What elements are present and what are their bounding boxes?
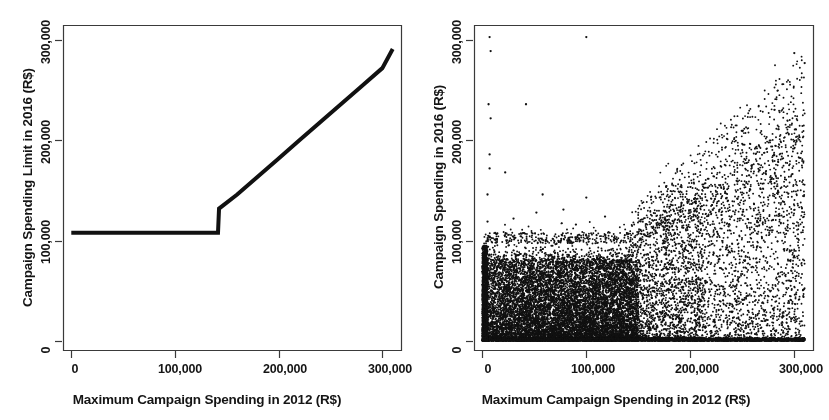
- y-tick-label-right-2: 200,000: [450, 120, 464, 164]
- y-tick-label-left-2: 200,000: [39, 120, 53, 164]
- y-axis-title-right: Campaign Spending in 2016 (R$): [431, 85, 446, 289]
- y-tick-label-right-3: 300,000: [450, 20, 464, 64]
- x-tick-label-right-3: 300,000: [779, 362, 823, 376]
- x-tick-label-left-0: 0: [72, 362, 79, 376]
- x-tick-label-left-3: 300,000: [368, 362, 412, 376]
- x-tick-label-left-2: 200,000: [263, 362, 307, 376]
- y-tick-label-left-1: 100,000: [39, 220, 53, 264]
- x-tick-label-right-2: 200,000: [675, 362, 719, 376]
- y-tick-label-left-3: 300,000: [39, 20, 53, 64]
- x-tick-label-right-0: 0: [485, 362, 492, 376]
- scatter-plot-canvas: [409, 0, 829, 420]
- x-axis-title-right: Maximum Campaign Spending in 2012 (R$): [409, 392, 823, 407]
- y-tick-label-right-0: 0: [450, 347, 464, 354]
- line-plot-canvas: [0, 0, 414, 420]
- figure-container: Campaign Spending Limit in 2016 (R$) Max…: [0, 0, 829, 420]
- panel-spending-scatter: Campaign Spending in 2016 (R$) Maximum C…: [409, 0, 823, 420]
- x-tick-label-right-1: 100,000: [571, 362, 615, 376]
- x-tick-label-left-1: 100,000: [158, 362, 202, 376]
- y-axis-title-left: Campaign Spending Limit in 2016 (R$): [20, 68, 35, 307]
- y-tick-label-right-1: 100,000: [450, 220, 464, 264]
- x-axis-title-left: Maximum Campaign Spending in 2012 (R$): [0, 392, 414, 407]
- y-tick-label-left-0: 0: [39, 347, 53, 354]
- panel-spending-limit: Campaign Spending Limit in 2016 (R$) Max…: [0, 0, 414, 420]
